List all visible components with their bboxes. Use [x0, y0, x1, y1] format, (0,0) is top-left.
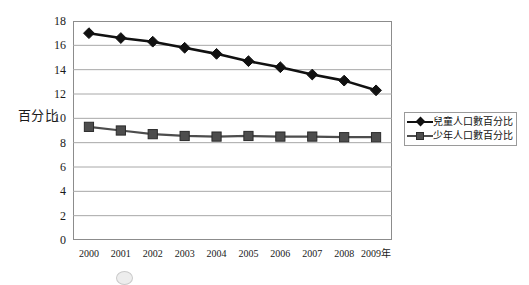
legend-label-children: 兒童人口數百分比 — [433, 116, 513, 128]
y-tick-label: 16 — [42, 39, 66, 51]
y-tick-label: 12 — [42, 88, 66, 100]
page-artifact-mark — [116, 271, 133, 285]
y-tick-label: 4 — [42, 185, 66, 197]
data-point-marker — [371, 133, 380, 142]
data-point-marker — [84, 28, 95, 39]
data-point-marker — [179, 42, 190, 53]
data-point-marker — [275, 62, 286, 73]
data-point-marker — [116, 126, 125, 135]
series-line-youth — [89, 127, 376, 137]
y-tick-label: 10 — [42, 112, 66, 124]
data-point-marker — [339, 75, 350, 86]
data-point-marker — [308, 132, 317, 141]
y-tick-label: 18 — [42, 15, 66, 27]
data-point-marker — [243, 56, 254, 67]
x-tick-label: 2009年 — [352, 248, 400, 259]
y-tick-label: 8 — [42, 137, 66, 149]
y-tick-label: 2 — [42, 210, 66, 222]
series-line-children — [89, 33, 376, 90]
data-point-marker — [244, 131, 253, 140]
y-tick-label: 14 — [42, 64, 66, 76]
legend-item-children: 兒童人口數百分比 — [407, 115, 513, 129]
legend-label-youth: 少年人口數百分比 — [433, 130, 513, 142]
legend-item-youth: 少年人口數百分比 — [407, 129, 513, 143]
legend-marker-square-icon — [407, 130, 433, 142]
data-point-marker — [180, 131, 189, 140]
data-point-marker — [84, 122, 93, 131]
y-tick-label: 6 — [42, 161, 66, 173]
data-point-marker — [211, 48, 222, 59]
data-point-marker — [307, 69, 318, 80]
data-point-marker — [212, 132, 221, 141]
data-point-marker — [276, 132, 285, 141]
y-tick-label: 0 — [42, 234, 66, 246]
data-point-marker — [115, 33, 126, 44]
chart-legend: 兒童人口數百分比 少年人口數百分比 — [404, 112, 517, 146]
data-point-marker — [340, 133, 349, 142]
data-point-marker — [148, 130, 157, 139]
legend-marker-diamond-icon — [407, 116, 433, 128]
